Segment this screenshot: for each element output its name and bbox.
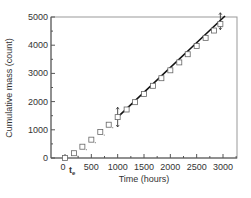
data-point [63,156,68,161]
x-tick-label: 1500 [134,162,154,172]
x-axis-label: Time (hours) [119,174,170,184]
data-point [194,44,199,49]
data-point [71,151,76,156]
chart: 010002000300040005000 050010001500200025… [0,0,251,198]
y-tick-label: 0 [43,153,48,163]
y-tick-label: 4000 [28,40,48,50]
data-point [150,83,155,88]
data-points [63,22,223,161]
y-tick-label: 5000 [28,12,48,22]
y-tick-label: 3000 [28,68,48,78]
data-point [142,91,147,96]
data-point [212,28,217,33]
te-annotation: te [69,165,76,176]
data-point [80,144,85,149]
x-tick-label: 500 [84,162,99,172]
data-point [177,60,182,65]
x-ticks: 050010001500200025003000 [60,154,236,172]
y-tick-label: 1000 [28,125,48,135]
data-point [89,137,94,142]
data-point [185,52,190,57]
x-tick-label: 2000 [160,162,180,172]
data-point [115,115,120,120]
y-axis-label: Cumulative mass (count) [4,38,14,138]
data-point [168,68,173,73]
data-point [106,122,111,127]
y-tick-label: 2000 [28,97,48,107]
data-point [218,22,223,27]
x-tick-label: 3000 [213,162,233,172]
x-tick-label: 0 [60,162,65,172]
x-tick-label: 2500 [187,162,207,172]
data-point [124,107,129,112]
data-point [159,76,164,81]
plot-frame [51,17,237,158]
data-point [133,100,138,105]
x-tick-label: 1000 [108,162,128,172]
data-point [203,35,208,40]
data-point [98,130,103,135]
